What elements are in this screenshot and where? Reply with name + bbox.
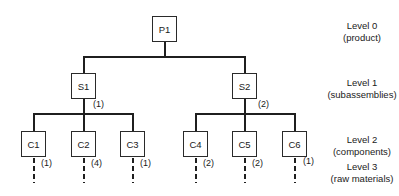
connector-c5-drop <box>244 113 246 131</box>
connector-c6-drop <box>294 113 296 131</box>
connector-c2-drop <box>83 113 85 131</box>
level-1-title: Level 1 <box>317 77 399 89</box>
node-c2: C2 <box>71 131 96 157</box>
node-s1: S1 <box>71 73 96 99</box>
level-0-label: Level 0 (product) <box>317 20 399 44</box>
connector-c1-drop <box>33 113 35 131</box>
level-2-subtitle: (components) <box>317 146 399 158</box>
level-1-subtitle: (subassemblies) <box>317 89 399 101</box>
node-s2: S2 <box>232 73 257 99</box>
raw-material-line-c6 <box>294 158 296 183</box>
raw-material-line-c4 <box>195 158 197 183</box>
quantity-raw-c3: (1) <box>140 158 151 168</box>
connector-c3-drop <box>132 113 134 131</box>
raw-material-line-c2 <box>83 158 85 183</box>
level-3-subtitle: (raw materials) <box>317 173 399 185</box>
connector-c4-drop <box>195 113 197 131</box>
raw-material-line-c1 <box>33 158 35 183</box>
node-c6: C6 <box>282 131 307 157</box>
raw-material-line-c5 <box>244 158 246 183</box>
connector-s1-drop <box>83 56 85 73</box>
level-3-label: Level 3 (raw materials) <box>317 161 399 185</box>
quantity-raw-c4: (2) <box>203 158 214 168</box>
quantity-s2: (2) <box>258 99 269 109</box>
quantity-raw-c6: (1) <box>303 156 314 166</box>
node-p1: P1 <box>152 16 177 42</box>
node-c3: C3 <box>120 131 145 157</box>
connector-level1-bus <box>83 56 246 58</box>
level-3-title: Level 3 <box>317 161 399 173</box>
level-2-label: Level 2 (components) <box>317 134 399 158</box>
quantity-raw-c5: (2) <box>252 158 263 168</box>
level-1-label: Level 1 (subassemblies) <box>317 77 399 101</box>
quantity-raw-c2: (4) <box>91 158 102 168</box>
level-2-title: Level 2 <box>317 134 399 146</box>
level-0-title: Level 0 <box>317 20 399 32</box>
raw-material-line-c3 <box>132 158 134 183</box>
node-c4: C4 <box>183 131 208 157</box>
node-c5: C5 <box>232 131 257 157</box>
level-0-subtitle: (product) <box>317 32 399 44</box>
quantity-s1: (1) <box>93 99 104 109</box>
connector-s2-drop <box>244 56 246 73</box>
quantity-raw-c1: (1) <box>41 158 52 168</box>
node-c1: C1 <box>21 131 46 157</box>
